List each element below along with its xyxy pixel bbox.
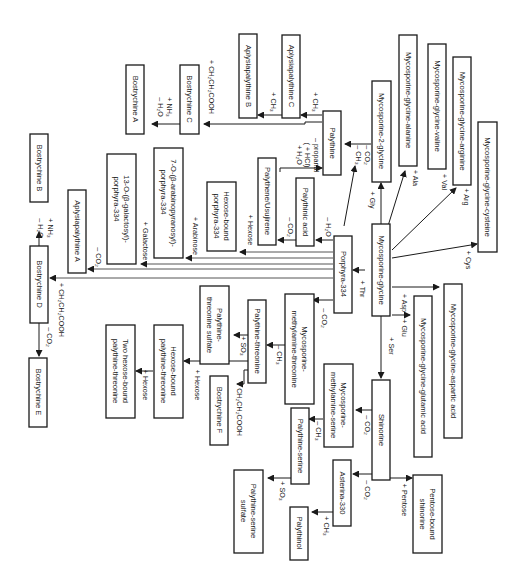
label-pal-ch3-a: + CH₃: [311, 92, 320, 112]
svg-text:porphyra-334: porphyra-334: [212, 193, 221, 238]
svg-text:Palythinol: Palythinol: [295, 517, 304, 550]
edge-arg: [392, 188, 456, 250]
label-nh3-b: + NH₃: [46, 218, 55, 238]
svg-text:Porphyra-334: Porphyra-334: [339, 251, 348, 297]
label-p334-co2-a: – CO₂: [94, 247, 103, 267]
node-bostrychine-b: Bostrychine B: [30, 134, 48, 202]
label-glu: + Glu: [400, 319, 409, 336]
svg-text:Mycosporine-glycine-alanine: Mycosporine-glycine-alanine: [404, 52, 413, 148]
svg-text:Palythinic acid: Palythinic acid: [301, 188, 310, 237]
label-m2g-co2: – CO₂: [363, 145, 372, 165]
svg-text:Palythine-serine: Palythine-serine: [296, 419, 305, 473]
node-hexose-bound-porphyra-334: Hexose-bound porphyra-334: [207, 182, 236, 251]
svg-text:Palythine-serine: Palythine-serine: [249, 484, 258, 538]
node-aplysiapalythine-a: Aplysiapalythine A: [68, 190, 86, 273]
svg-text:Mycosporine-: Mycosporine-: [339, 382, 348, 428]
svg-text:Palythene/Usujirene: Palythene/Usujirene: [263, 167, 272, 235]
label-pentose: + Pentose: [400, 484, 409, 517]
svg-text:Mycosporine-: Mycosporine-: [300, 326, 309, 372]
svg-text:porphyra-334: porphyra-334: [159, 169, 168, 214]
label-ala: + Ala: [411, 170, 420, 186]
label-val: + Val: [440, 174, 449, 190]
node-bostrychine-c: Bostrychine C: [180, 65, 199, 134]
node-mycosporine-glycine-aspartic-acid: Mycosporine-glycine-aspartic acid: [444, 284, 462, 438]
label-arg: + Arg: [462, 189, 471, 206]
label-bostD-co2: – CO₂: [45, 327, 54, 347]
label-arabinose: + Arabinose: [191, 217, 200, 255]
node-mycosporine-glycine-arginine: Mycosporine-glycine-arginine: [453, 57, 471, 185]
svg-text:Aplysiapalythine B: Aplysiapalythine B: [244, 45, 253, 107]
svg-text:Bostrychine D: Bostrychine D: [35, 260, 44, 308]
node-shinorine: Shinorine: [372, 380, 390, 480]
svg-text:Bostrychine E: Bostrychine E: [34, 369, 43, 416]
label-h2o-a: – H₂O: [156, 97, 165, 117]
label-p334-h2o: – H₂O: [324, 217, 333, 237]
node-pentose-bound-shinorine: Pentose-bound shinorine: [413, 475, 442, 553]
label-cys: + Cys: [464, 251, 473, 270]
svg-text:Mycosporine-glycine-arginine: Mycosporine-glycine-arginine: [458, 72, 467, 171]
label-h2o-b: – H₂O: [36, 218, 45, 238]
svg-text:threonine sulfate: threonine sulfate: [205, 297, 214, 353]
label-galactose: + Galactose: [141, 222, 150, 261]
edge-palythine-bostC: [204, 122, 322, 124]
label-mms-ch3: – CH₃: [314, 421, 323, 440]
svg-text:Palythine: Palythine: [328, 127, 337, 158]
label-palythinic-co2: – CO₂: [286, 217, 295, 237]
node-palythine-threonine: Palythine-threonine: [248, 300, 266, 383]
node-porphyra-334: Porphyra-334: [334, 236, 352, 313]
svg-text:Bostrychine B: Bostrychine B: [35, 145, 44, 192]
edge-ala: [344, 166, 355, 226]
svg-text:Hexose-bound: Hexose-bound: [222, 191, 231, 240]
node-bostrychine-d: Bostrychine D: [30, 246, 48, 323]
node-mycosporine-glycine-alanine: Mycosporine-glycine-alanine: [399, 35, 417, 166]
label-so3-a: + SO₃: [239, 336, 248, 356]
node-mycosporine-2-glycine: Mycosporine-2-glycine: [372, 81, 391, 182]
label-hexose-2: + Hexose: [193, 370, 202, 401]
label-nh3-a: + NH₃: [165, 97, 174, 117]
label-asp: + Asp: [400, 294, 409, 312]
node-aplysiapalythine-c: Aplysiapalythine C: [282, 35, 300, 118]
label-bostD-ccooh: + CH₂CH₂COOH: [57, 283, 66, 337]
label-h2o-add: + H₂O: [295, 145, 304, 165]
node-palythene-usujirene: Palythene/Usujirene: [258, 158, 276, 245]
svg-text:sulfate: sulfate: [239, 500, 248, 522]
node-palythine-serine-sulfate: Palythine-serine sulfate: [234, 470, 263, 553]
node-bostrychine-a: Bostrychine A: [126, 65, 144, 134]
svg-text:methylamine-threonine: methylamine-threonine: [290, 310, 299, 387]
label-ser: + Ser: [387, 337, 396, 355]
node-mycosporine-glycine: Mycosporine-glycine: [372, 224, 390, 316]
label-thr: + Thr: [358, 281, 367, 298]
svg-text:porphyra-334: porphyra-334: [112, 176, 121, 221]
svg-text:Mycosporine-2-glycine: Mycosporine-2-glycine: [377, 93, 386, 169]
node-palythine-serine: Palythine-serine: [291, 408, 309, 484]
label-ccooh-f: + CH₂CH₂COOH: [235, 382, 244, 436]
label-ast-ch3: + CH₃: [322, 516, 331, 536]
svg-text:13-O-(β-galactosyl)-: 13-O-(β-galactosyl)-: [122, 175, 131, 243]
node-mycosporine-methylamine-threonine: Mycosporine- methylamine-threonine: [285, 294, 314, 404]
svg-text:Bostrychine A: Bostrychine A: [131, 76, 140, 123]
label-so3-b: + SO₃: [278, 481, 287, 501]
svg-text:Mycosporine-glycine-aspartic a: Mycosporine-glycine-aspartic acid: [449, 304, 458, 418]
node-mycosporine-methylamine-serine: Mycosporine- methylamine-serine: [324, 364, 353, 447]
svg-text:7-O-(β-arabinopyranosyl)-: 7-O-(β-arabinopyranosyl)-: [169, 159, 178, 247]
node-palythinic-acid: Palythinic acid: [296, 178, 314, 246]
svg-text:Mycosporine-glycine: Mycosporine-glycine: [377, 235, 386, 304]
node-mycosporine-glycine-valine: Mycosporine-glycine-valine: [428, 44, 446, 169]
svg-text:Shinorine: Shinorine: [377, 414, 386, 446]
svg-text:Pentose-bound: Pentose-bound: [428, 488, 437, 540]
node-aplysiapalythine-b: Aplysiapalythine B: [239, 34, 257, 118]
label-propanal: – propanal: [312, 138, 321, 172]
node-two-hexose-bound-palythine-threonine: Two hexose-bound palythine-threonine: [106, 325, 135, 418]
label-mmt-ch3: – CH₃: [275, 345, 284, 364]
node-palythine: Palythine: [323, 111, 341, 175]
label-hexose-3: + Hexose: [141, 370, 150, 401]
svg-text:Mycosporine-glycine-glutamic a: Mycosporine-glycine-glutamic acid: [419, 318, 428, 434]
svg-text:Aplysiapalythine A: Aplysiapalythine A: [73, 200, 82, 263]
label-hexose-1: + Hexose: [246, 215, 255, 246]
label-pal-ccooh: + CH₂CH₂COOH: [207, 60, 216, 114]
node-galactosyl-porphyra-334: 13-O-(β-galactosyl)- porphyra-334: [107, 154, 136, 264]
node-palythine-threonine-sulfate: Palythine- threonine sulfate: [200, 286, 229, 364]
svg-text:Hexose-bound: Hexose-bound: [169, 346, 178, 395]
svg-text:Aplysiapalythine C: Aplysiapalythine C: [287, 45, 296, 108]
node-arabinopyranosyl-porphyra-334: 7-O-(β-arabinopyranosyl)- porphyra-334: [154, 148, 183, 258]
